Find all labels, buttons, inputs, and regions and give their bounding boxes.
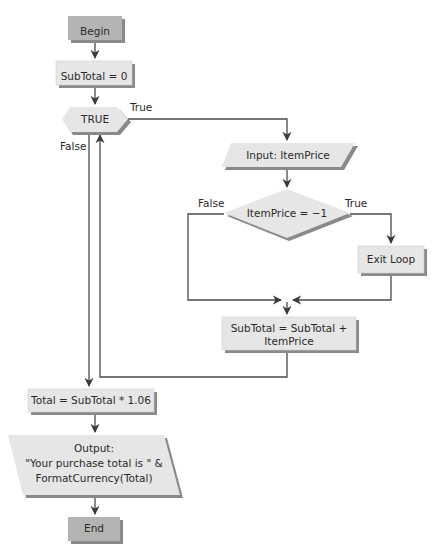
loop-false-label: False xyxy=(60,140,86,152)
decision-false-label: False xyxy=(198,197,224,209)
input-itemprice-node: Input: ItemPrice xyxy=(222,143,358,170)
exit-loop-label: Exit Loop xyxy=(367,253,416,265)
arrow-loop-true-to-input xyxy=(128,119,287,140)
output-line1: Output: xyxy=(74,442,114,454)
flowchart-canvas: Begin SubTotal = 0 TRUE True False Input… xyxy=(0,0,447,559)
decision-itemprice-node: ItemPrice = −1 xyxy=(224,189,353,241)
total-label: Total = SubTotal * 1.06 xyxy=(30,394,151,406)
output-node: Output: "Your purchase total is " & Form… xyxy=(8,435,183,498)
arrow-decision-true-to-exit xyxy=(350,214,391,243)
accumulate-line1: SubTotal = SubTotal + xyxy=(231,322,348,334)
output-line2: "Your purchase total is " & xyxy=(25,457,163,469)
begin-label: Begin xyxy=(80,25,110,37)
output-line3: FormatCurrency(Total) xyxy=(35,472,152,484)
input-itemprice-label: Input: ItemPrice xyxy=(246,149,330,161)
init-subtotal-node: SubTotal = 0 xyxy=(56,61,135,88)
decision-true-label: True xyxy=(344,197,367,209)
accumulate-subtotal-node: SubTotal = SubTotal + ItemPrice xyxy=(222,317,359,353)
begin-node: Begin xyxy=(68,16,125,43)
end-node: End xyxy=(68,517,123,544)
decision-itemprice-label: ItemPrice = −1 xyxy=(247,207,327,219)
loop-condition-label: TRUE xyxy=(80,113,109,125)
init-subtotal-label: SubTotal = 0 xyxy=(61,70,128,82)
accumulate-line2: ItemPrice xyxy=(264,335,314,347)
end-label: End xyxy=(84,522,104,534)
loop-condition-node: TRUE xyxy=(62,107,131,135)
exit-loop-node: Exit Loop xyxy=(358,246,427,276)
loop-true-label: True xyxy=(129,101,152,113)
arrow-exit-to-merge xyxy=(293,275,391,300)
total-node: Total = SubTotal * 1.06 xyxy=(28,389,157,415)
